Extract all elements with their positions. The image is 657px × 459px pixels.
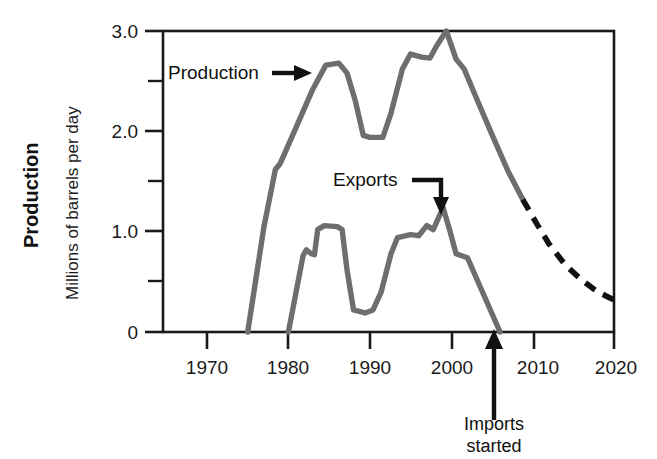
x-tick-label-1990: 1990 <box>349 357 391 378</box>
x-tick-label-2020: 2020 <box>595 357 637 378</box>
production-label: Production <box>168 62 259 83</box>
imports-started-line2: started <box>466 436 521 456</box>
y-tick-label-2: 2.0 <box>112 121 138 142</box>
y-axis-tick-labels: 3.0 2.0 1.0 0 <box>112 21 138 343</box>
y-axis-minor-ticks <box>148 81 163 281</box>
x-axis-tick-labels: 1970 1980 1990 2000 2010 2020 <box>186 357 637 378</box>
chart-container: 3.0 2.0 1.0 0 Production Millions of bar… <box>0 0 657 459</box>
x-tick-label-1970: 1970 <box>186 357 228 378</box>
x-tick-label-2000: 2000 <box>431 357 473 378</box>
x-tick-label-2010: 2010 <box>517 357 559 378</box>
exports-label: Exports <box>333 169 397 190</box>
imports-started-line1: Imports <box>464 414 524 434</box>
y-axis-title-production: Production <box>20 142 42 248</box>
production-exports-line-chart: 3.0 2.0 1.0 0 Production Millions of bar… <box>0 0 657 459</box>
y-tick-label-3: 3.0 <box>112 21 138 42</box>
imports-arrow-up-icon <box>485 329 503 420</box>
y-axis-title-units: Millions of barrels per day <box>63 106 82 300</box>
x-tick-label-1980: 1980 <box>267 357 309 378</box>
y-tick-label-0: 0 <box>127 322 138 343</box>
x-axis-ticks <box>207 332 614 349</box>
annotation-imports-started: Imports started <box>464 329 524 456</box>
y-tick-label-1: 1.0 <box>112 221 138 242</box>
y-axis-titles: Production Millions of barrels per day <box>20 106 82 300</box>
